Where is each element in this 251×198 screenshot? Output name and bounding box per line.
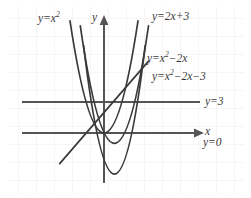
label-y-equals-0: y=0 — [203, 137, 222, 149]
label-y-equals-x-squared-minus-2x-minus-3: y=x2−2x−3 — [152, 71, 206, 83]
math-graph-figure: y=x2 y y=2x+3 y=x2−2x y=x2−2x−3 y=3 x y=… — [0, 0, 251, 198]
label-y-equals-x-squared: y=x2 — [38, 13, 60, 25]
y-axis-arrowhead — [100, 15, 109, 25]
curve-y-equals-x-squared-minus-2x — [80, 26, 148, 144]
label-y-equals-3: y=3 — [205, 96, 224, 108]
curve-y-equals-x-squared-minus-2x-minus-3 — [84, 46, 146, 175]
label-y-axis: y — [92, 12, 97, 24]
label-y-equals-x-squared-minus-2x: y=x2−2x — [147, 53, 187, 65]
label-y-equals-2x-plus-3: y=2x+3 — [152, 11, 189, 23]
